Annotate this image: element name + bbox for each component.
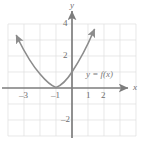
- x-tick-label-neg3: –3: [19, 91, 28, 100]
- y-tick-label-neg2: –2: [61, 115, 70, 124]
- x-axis-label: x: [133, 83, 137, 92]
- x-tick-label-1: 1: [86, 91, 91, 100]
- parabola-plot: [0, 0, 151, 145]
- parabola-right-arrow: [92, 29, 95, 36]
- function-label: y = f(x): [86, 70, 113, 79]
- x-tick-label-2: 2: [101, 91, 106, 100]
- y-axis-label: y: [70, 1, 74, 10]
- y-tick-label-4: 4: [63, 19, 68, 28]
- parabola-left-arrow: [16, 35, 19, 42]
- graph-figure: –3 –1 1 2 4 2 –2 y x y = f(x): [0, 0, 151, 145]
- parabola-curve: [18, 33, 94, 88]
- x-tick-label-neg1: –1: [51, 91, 60, 100]
- y-tick-label-2: 2: [63, 51, 68, 60]
